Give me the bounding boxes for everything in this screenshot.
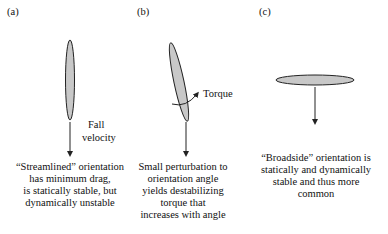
caption-c-line: “Broadside” orientation is <box>261 152 371 163</box>
falling-body-orientation-diagram: (a) Fall velocity “Streamlined” orientat… <box>0 0 388 234</box>
caption-b-line: increases with angle <box>140 209 225 220</box>
caption-a-line: “Streamlined” orientation <box>16 161 125 172</box>
panel-c: (c) “Broadside” orientation is staticall… <box>259 6 372 199</box>
caption-b-line: torque that <box>160 197 205 208</box>
panel-b: (b) Torque Small perturbation to orienta… <box>137 6 233 220</box>
panel-c-label: (c) <box>259 6 271 18</box>
caption-a-line: has minimum drag, <box>29 173 110 184</box>
panel-a: (a) Fall velocity “Streamlined” orientat… <box>7 6 125 208</box>
caption-a-line: dynamically unstable <box>25 197 115 208</box>
caption-c-line: statically and dynamically <box>261 164 372 175</box>
broadside-body <box>276 75 354 85</box>
panel-a-label: (a) <box>7 6 19 18</box>
caption-b-line: yields destabilizing <box>142 185 224 196</box>
fall-label: Fall <box>88 119 104 130</box>
caption-c-line: stable and thus more <box>273 176 360 187</box>
caption-c-line: common <box>298 188 335 199</box>
torque-label: Torque <box>203 88 233 99</box>
panel-b-label: (b) <box>137 6 150 18</box>
caption-b-line: Small perturbation to <box>138 161 227 172</box>
caption-a-line: is statically stable, but <box>23 185 116 196</box>
caption-b-line: orientation angle <box>148 173 219 184</box>
tilted-body <box>166 42 192 122</box>
velocity-label: velocity <box>82 132 117 143</box>
streamlined-body <box>66 40 75 120</box>
